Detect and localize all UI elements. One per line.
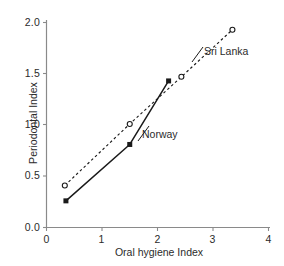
y-tick-label-2-0: 2.0 <box>6 16 40 28</box>
series-label-sri-lanka: Sri Lanka <box>204 45 248 57</box>
series-norway-line <box>66 81 169 201</box>
x-tick-label-4: 4 <box>258 233 279 245</box>
leader-sri-lanka <box>192 47 203 62</box>
series-norway <box>63 78 171 203</box>
series-sri-lanka-point <box>62 183 67 188</box>
series-sri-lanka-point <box>127 121 132 126</box>
x-tick-label-1: 1 <box>91 233 112 245</box>
x-tick-label-0: 0 <box>36 233 57 245</box>
x-tick-label-2: 2 <box>147 233 168 245</box>
series-sri-lanka-point <box>230 27 235 32</box>
y-axis-title: Periodontal Index <box>27 43 39 203</box>
chart-figure: 2.0 1.5 1.0 0.5 0.0 0 1 2 3 4 Oral hygie… <box>0 0 284 266</box>
annotation-leaders <box>138 47 203 141</box>
y-tick-label-0-0: 0.0 <box>6 221 40 233</box>
series-norway-point <box>166 78 171 83</box>
series-sri-lanka-point <box>179 74 184 79</box>
series-label-norway: Norway <box>142 128 178 140</box>
x-axis-title: Oral hygiene Index <box>74 246 244 258</box>
series-norway-point <box>127 142 132 147</box>
series-norway-point <box>63 198 68 203</box>
x-tick-label-3: 3 <box>202 233 223 245</box>
